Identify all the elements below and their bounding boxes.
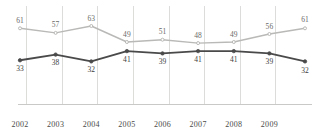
data-point [197, 42, 200, 45]
x-axis-tick-label: 2009 [261, 120, 278, 130]
data-label: 41 [230, 56, 238, 64]
data-point [268, 33, 271, 36]
data-label: 32 [87, 66, 95, 74]
data-point [54, 31, 57, 34]
data-point [54, 53, 57, 56]
data-label: 49 [230, 31, 238, 39]
data-label: 57 [52, 21, 60, 29]
data-label: 49 [123, 31, 131, 39]
data-label: 61 [16, 17, 24, 25]
x-axis-tick-label: 2008 [225, 120, 242, 130]
data-label: 63 [87, 15, 95, 23]
data-point [303, 60, 306, 63]
data-label: 51 [159, 28, 167, 36]
data-label: 41 [123, 56, 131, 64]
data-point [125, 41, 128, 44]
data-point [304, 27, 307, 30]
line-chart: 615763495148495661 333832413941413932 20… [0, 0, 321, 138]
data-label: 32 [301, 67, 309, 75]
x-axis-tick-label: 2006 [154, 120, 171, 130]
gridlines [27, 6, 276, 104]
chart-plot-area: 615763495148495661 333832413941413932 [0, 0, 321, 112]
x-axis-tick-label: 2004 [83, 120, 100, 130]
data-point [125, 49, 128, 52]
data-label: 39 [266, 58, 274, 66]
data-point [90, 25, 93, 28]
x-axis-tick-label: 2007 [189, 120, 206, 130]
x-axis-tick-label: 2003 [47, 120, 64, 130]
data-point [18, 59, 21, 62]
x-axis-tick-label: 2005 [118, 120, 135, 130]
data-label: 39 [159, 58, 167, 66]
data-point [90, 60, 93, 63]
data-point [161, 52, 164, 55]
x-axis-labels: 20022003200420052006200720082009 [0, 114, 321, 138]
data-point [161, 38, 164, 41]
data-point [268, 52, 271, 55]
data-label: 56 [266, 23, 274, 31]
data-point [196, 49, 199, 52]
data-label: 41 [194, 56, 202, 64]
data-label: 61 [301, 16, 309, 24]
data-label: 38 [52, 59, 60, 67]
data-point [19, 27, 22, 30]
data-point [232, 49, 235, 52]
data-point [232, 41, 235, 44]
data-label: 48 [194, 32, 202, 40]
x-axis-tick-label: 2002 [11, 120, 28, 130]
data-label: 33 [16, 65, 24, 73]
